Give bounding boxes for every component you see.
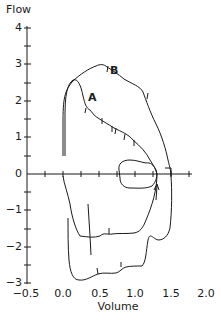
curve-a	[63, 80, 157, 237]
y-tick-3: 3	[2, 58, 22, 69]
annotation-a: A	[88, 92, 97, 103]
x-tick-00: 0.0	[54, 288, 72, 299]
y-tick-m1: −1	[2, 204, 22, 215]
y-tick-1: 1	[2, 131, 22, 142]
y-tick-2: 2	[2, 95, 22, 106]
x-tick-05: 0.5	[91, 288, 109, 299]
flow-volume-chart	[0, 0, 221, 320]
x-axis-label: Volume	[98, 301, 139, 312]
x-tick-20: 2.0	[197, 288, 215, 299]
x-tick-m05: −0.5	[13, 288, 40, 299]
x-tick-15: 1.5	[162, 288, 180, 299]
y-tick-m2: −2	[2, 241, 22, 252]
y-tick-0: 0	[2, 168, 22, 179]
y-axis-label: Flow	[6, 4, 31, 15]
annotation-b: B	[110, 65, 118, 76]
y-tick-4: 4	[2, 22, 22, 33]
x-tick-10: 1.0	[126, 288, 144, 299]
